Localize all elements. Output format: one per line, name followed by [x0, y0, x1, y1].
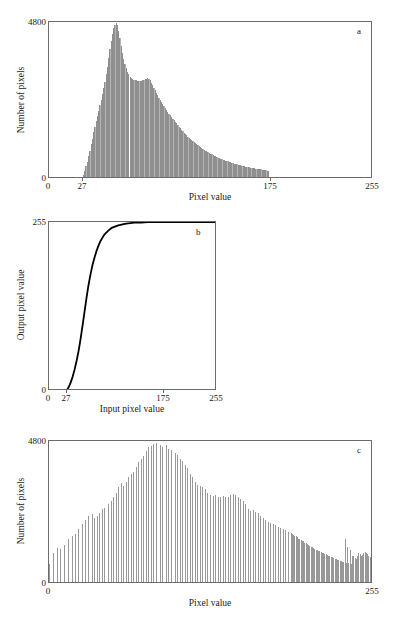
histogram-bar: [238, 497, 239, 582]
histogram-bar: [215, 495, 216, 582]
panel-letter-c: c: [357, 445, 361, 455]
histogram-bar: [146, 451, 147, 582]
histogram-bar: [102, 509, 103, 582]
histogram-bar: [57, 548, 58, 582]
panel-letter-b: b: [196, 227, 201, 237]
histogram-bar: [123, 486, 124, 582]
histogram-bar: [88, 516, 89, 582]
histogram-bar: [171, 450, 172, 582]
histogram-bar: [138, 462, 139, 582]
histogram-bar: [133, 472, 134, 582]
histogram-bar: [248, 509, 249, 582]
panel-letter-a: a: [357, 26, 361, 36]
x-tick-255-a: 255: [365, 181, 379, 191]
histogram-bar: [75, 534, 76, 582]
histogram-bar: [200, 486, 201, 582]
y-tick-max-c: 4800: [28, 436, 46, 446]
histogram-bar: [233, 494, 234, 582]
x-tick-175-a: 175: [263, 181, 277, 191]
y-axis-title-a: Number of pixels: [16, 67, 26, 134]
histogram-bar: [99, 513, 100, 582]
histogram-bar: [230, 495, 231, 582]
x-tick-0-c: 0: [46, 586, 51, 596]
histogram-bar: [268, 171, 269, 177]
histogram-bar: [113, 497, 114, 582]
histogram-bar: [268, 522, 269, 583]
histogram-bar: [82, 524, 83, 582]
histogram-bar: [240, 499, 241, 582]
histogram-bar: [210, 495, 211, 582]
chart-panel-c: 4800 0 0 255 Pixel value Number of pixel…: [0, 415, 394, 626]
histogram-bar: [260, 516, 261, 582]
histogram-bar: [235, 495, 236, 582]
histogram-bar: [185, 465, 186, 582]
histogram-bar: [265, 520, 266, 582]
y-axis-title-b: Output pixel value: [16, 270, 26, 341]
histogram-bar: [148, 447, 149, 582]
histogram-bar: [370, 557, 371, 582]
histogram-bar: [182, 461, 183, 582]
histogram-bar: [250, 511, 251, 582]
histogram-bar: [97, 516, 98, 582]
histogram-bar: [243, 501, 244, 582]
transfer-function-curve: [49, 222, 216, 390]
histogram-bar: [168, 449, 169, 582]
histogram-bar: [228, 497, 229, 582]
histogram-bar: [283, 529, 284, 582]
histogram-bar: [85, 520, 86, 582]
histogram-bar: [195, 482, 196, 582]
histogram-bar: [263, 518, 264, 582]
y-tick-max-a: 4800: [28, 17, 46, 27]
plot-frame-b: [48, 221, 216, 390]
y-axis-title-c: Number of pixels: [16, 478, 26, 545]
x-tickmark-175-a: [270, 178, 271, 181]
histogram-bar: [166, 445, 167, 582]
histogram-bar: [288, 532, 289, 582]
histogram-bar: [220, 497, 221, 582]
x-tickmark-175-b: [163, 390, 164, 393]
x-axis-title-c: Pixel value: [189, 598, 231, 608]
histogram-bar: [223, 496, 224, 582]
histogram-bar: [128, 477, 129, 582]
histogram-bar: [141, 459, 142, 582]
histogram-bar: [108, 504, 109, 582]
x-tick-0-a: 0: [46, 181, 51, 191]
histogram-bar: [190, 474, 191, 582]
plot-area-a: [49, 22, 371, 177]
histogram-bar: [273, 524, 274, 582]
histogram-bar: [258, 513, 259, 582]
histogram-bar: [94, 518, 95, 582]
histogram-bar: [162, 447, 163, 582]
histogram-bar: [197, 485, 198, 582]
histogram-bar: [131, 474, 132, 582]
plot-frame-a: [48, 21, 372, 178]
chart-panel-a: 4800 0 0 27 175 255 Pixel value Number o…: [0, 0, 394, 210]
histogram-bar: [192, 477, 193, 582]
histogram-bar: [49, 564, 50, 582]
histogram-bar: [280, 528, 281, 582]
x-tick-0-b: 0: [46, 393, 51, 403]
histogram-bar: [143, 456, 144, 582]
histogram-bar: [270, 523, 271, 582]
histogram-bar: [72, 536, 73, 582]
histogram-bar: [111, 501, 112, 582]
histogram-bar: [180, 459, 181, 582]
histogram-bar: [253, 510, 254, 582]
histogram-bar: [153, 444, 154, 582]
histogram-bar: [126, 482, 127, 582]
histogram-bar: [275, 525, 276, 582]
histogram-bar: [205, 489, 206, 582]
histogram-bar: [121, 483, 122, 582]
x-axis-title-b: Input pixel value: [100, 404, 164, 414]
histogram-bar: [278, 527, 279, 582]
y-tick-max-b: 255: [33, 217, 47, 227]
histogram-bar: [207, 493, 208, 582]
histogram-bar: [116, 493, 117, 582]
x-tick-175-b: 175: [156, 393, 170, 403]
histogram-bar: [104, 508, 105, 582]
x-tick-255-b: 255: [209, 393, 223, 403]
plot-frame-c: [48, 440, 372, 583]
histogram-bar: [175, 453, 176, 582]
histogram-bar: [78, 529, 79, 582]
histogram-bar: [213, 496, 214, 582]
